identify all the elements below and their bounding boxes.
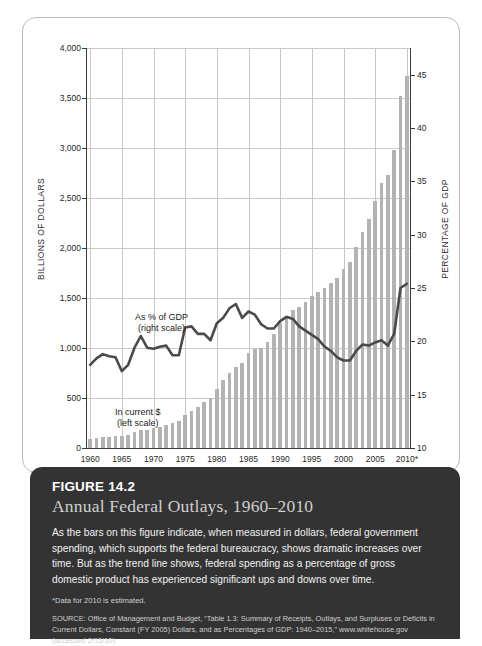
y-axis-left-tick-label: 3,500 [45,93,81,103]
y-axis-right-tick-label: 30 [417,230,447,240]
y-axis-left-tick-label: 4,000 [45,43,81,53]
x-axis-tick-label: 1995 [302,454,321,464]
y-axis-left-tick-label: 0 [45,443,81,453]
annotation-gdp-line-2: (right scale) [135,323,188,334]
y-axis-right-tick-label: 40 [417,123,447,133]
figure-card: BILLIONS OF DOLLARS PERCENTAGE OF GDP 05… [22,17,460,473]
y-axis-left-tick-label: 2,500 [45,193,81,203]
y-axis-left-title: BILLIONS OF DOLLARS [36,159,46,299]
x-axis-tick-label: 2010* [396,454,418,464]
y-axis-right-tick-label: 35 [417,176,447,186]
y-axis-right-tick-label: 45 [417,70,447,80]
annotation-current-dollars-1: In current $ [115,407,161,418]
y-axis-left-tick-label: 500 [45,393,81,403]
figure-description: As the bars on this figure indicate, whe… [52,525,438,587]
y-axis-right-tick-label: 15 [417,390,447,400]
plot-area: 05001,0001,5002,0002,5003,0003,5004,000 … [86,48,411,449]
y-axis-left-tick-label: 1,000 [45,343,81,353]
y-axis-right-tick-label: 20 [417,336,447,346]
x-axis-tick-label: 1975 [176,454,195,464]
x-axis-tick-label: 1990 [271,454,290,464]
figure-source: SOURCE: Office of Management and Budget,… [52,613,438,646]
figure-note: *Data for 2010 is estimated. [52,596,438,605]
line-series [87,48,410,448]
x-axis-tick-label: 2005 [366,454,385,464]
x-axis-tick-label: 1985 [239,454,258,464]
x-axis-tick-label: 1980 [207,454,226,464]
annotation-current-dollars: In current $ (left scale) [115,407,161,430]
annotation-current-dollars-2: (left scale) [115,418,161,429]
figure-title: Annual Federal Outlays, 1960–2010 [52,496,438,517]
plot-inner [87,48,410,448]
chart-area: BILLIONS OF DOLLARS PERCENTAGE OF GDP 05… [23,18,461,474]
y-axis-left-tick-label: 3,000 [45,143,81,153]
figure-number: FIGURE 14.2 [52,479,438,494]
x-axis-tick-label: 1970 [144,454,163,464]
y-axis-left-tick-label: 1,500 [45,293,81,303]
x-axis-tick-label: 2000 [334,454,353,464]
x-axis-tick-label: 1960 [81,454,100,464]
y-axis-right-tick-label: 25 [417,283,447,293]
annotation-gdp-line-1: As % of GDP [135,312,188,323]
x-axis-tick-label: 1965 [112,454,131,464]
figure-caption-panel: FIGURE 14.2 Annual Federal Outlays, 1960… [30,467,460,639]
y-axis-right-tick-label: 10 [417,443,447,453]
y-axis-left-tick-label: 2,000 [45,243,81,253]
annotation-gdp-line: As % of GDP (right scale) [135,312,188,335]
